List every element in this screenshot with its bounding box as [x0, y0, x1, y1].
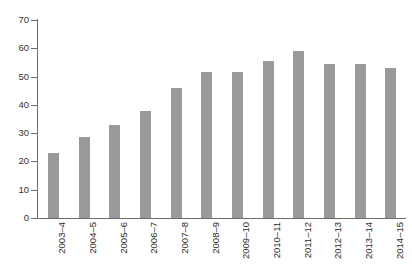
bar: [201, 72, 212, 218]
x-axis-tick-label: 2005–6: [119, 222, 129, 254]
x-axis-tick-label: 2007–8: [180, 222, 190, 254]
bar: [48, 153, 59, 218]
y-axis-tick-mark: [31, 48, 37, 49]
x-axis-tick-label: 2008–9: [211, 222, 221, 254]
bar: [140, 111, 151, 218]
x-axis-tick-label: 2013–14: [364, 222, 374, 259]
y-axis-tick-mark: [31, 105, 37, 106]
y-axis-tick-label: 70: [3, 15, 29, 25]
x-axis-tick-label: 2009–10: [241, 222, 251, 259]
y-axis-tick-label: 20: [3, 157, 29, 167]
bar: [293, 51, 304, 218]
bar: [263, 61, 274, 218]
bar: [79, 137, 90, 218]
y-axis-tick-mark: [31, 133, 37, 134]
x-axis-tick-label: 2003–4: [57, 222, 67, 254]
bar: [355, 64, 366, 218]
x-axis-line: [37, 218, 406, 219]
x-axis-tick-label: 2004–5: [88, 222, 98, 254]
x-axis-tick-label: 2006–7: [149, 222, 159, 254]
bar: [109, 125, 120, 218]
y-axis-tick-mark: [31, 161, 37, 162]
y-axis-tick-label: 60: [3, 44, 29, 54]
x-axis-tick-label: 2010–11: [272, 222, 282, 258]
y-axis-tick-mark: [31, 77, 37, 78]
y-axis-tick-label: 50: [3, 72, 29, 82]
y-axis-tick-label: 10: [3, 185, 29, 195]
bar: [232, 72, 243, 218]
y-axis-tick-label: 0: [3, 213, 29, 223]
x-axis-tick-label: 2012–13: [333, 222, 343, 259]
bar: [385, 68, 396, 218]
bar: [171, 88, 182, 218]
y-axis-tick-mark: [31, 20, 37, 21]
x-axis-tick-label: 2011–12: [303, 222, 313, 258]
y-axis-tick-mark: [31, 190, 37, 191]
y-axis-tick-mark: [31, 218, 37, 219]
bar-chart: 010203040506070 2003–42004–52005–62006–7…: [0, 0, 412, 277]
bar: [324, 64, 335, 218]
y-axis-tick-label: 30: [3, 128, 29, 138]
x-axis-tick-label: 2014–15: [395, 222, 405, 259]
y-axis-tick-label: 40: [3, 100, 29, 110]
bar-series: [38, 20, 406, 218]
